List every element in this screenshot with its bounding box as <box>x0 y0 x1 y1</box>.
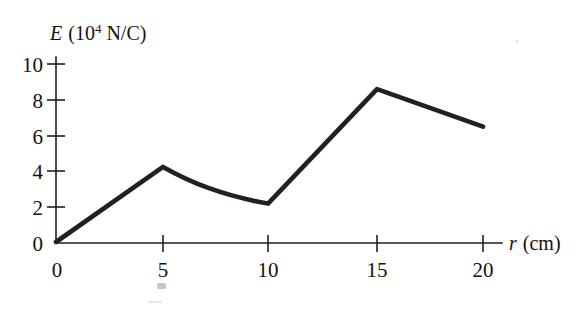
y-axis-unit-open: (10 <box>68 22 95 45</box>
y-axis-title: E(104 N/C) <box>49 21 146 45</box>
y-tick-label-6: 6 <box>33 125 44 149</box>
y-axis-symbol: E <box>49 22 62 44</box>
y-tick-label-8: 8 <box>33 89 44 113</box>
x-axis-unit: (cm) <box>523 232 561 255</box>
x-tick-label-20: 20 <box>473 258 494 282</box>
x-axis-symbol: r <box>509 232 517 254</box>
x-axis-title: r(cm) <box>509 232 561 255</box>
scan-artifact-line <box>148 301 162 303</box>
y-tick-label-10: 10 <box>22 53 43 77</box>
electric-field-vs-radius-chart: 10 8 6 4 2 0 0 5 10 15 20 E(104 N/C) r(c… <box>0 0 578 309</box>
y-tick-label-2: 2 <box>33 196 44 220</box>
scan-artifact-speck <box>157 283 166 289</box>
y-tick-label-0: 0 <box>33 232 44 256</box>
field-magnitude-curve <box>56 89 483 242</box>
x-tick-label-15: 15 <box>367 258 388 282</box>
y-axis-unit-close: N/C) <box>101 22 146 45</box>
figure-container: 10 8 6 4 2 0 0 5 10 15 20 E(104 N/C) r(c… <box>0 0 578 309</box>
scan-artifact-dot <box>516 40 519 43</box>
x-tick-label-10: 10 <box>258 258 279 282</box>
x-tick-label-0: 0 <box>52 258 63 282</box>
y-tick-label-4: 4 <box>33 160 44 184</box>
x-tick-label-5: 5 <box>158 258 169 282</box>
